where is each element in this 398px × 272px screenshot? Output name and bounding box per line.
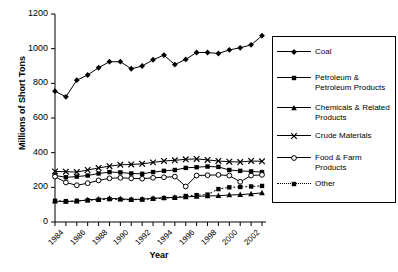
square-icon [287,177,301,191]
marker-circle-open [63,180,68,185]
marker-triangle [291,105,297,110]
diamond-icon [287,45,301,59]
marker-diamond [183,57,189,63]
marker-square [162,196,166,200]
marker-diamond [52,88,58,94]
marker-square [96,171,100,175]
marker-diamond [85,72,91,78]
marker-diamond [194,50,200,56]
marker-square [194,165,198,169]
legend-label[interactable]: Food & Farm Products [315,153,395,172]
legend-label[interactable]: Chemicals & Related Products [315,103,395,122]
marker-square [184,194,188,198]
marker-circle-open [85,181,90,186]
marker-square [216,165,220,169]
chart-figure: Millions of Short Tons Year 120010008006… [0,0,398,272]
marker-diamond [139,63,145,69]
marker-square [129,171,133,175]
marker-square [292,76,296,80]
marker-square [227,168,231,172]
marker-square [75,174,79,178]
marker-square [184,166,188,170]
series-food-farm-products [53,172,265,188]
marker-circle-open [74,183,79,188]
legend-label[interactable]: Crude Materials [315,131,395,141]
marker-diamond [128,66,134,72]
marker-square [118,170,122,174]
marker-square [292,182,296,186]
series-other [53,184,264,204]
marker-circle-open [238,179,243,184]
marker-square [194,193,198,197]
legend-label[interactable]: Other [315,179,395,189]
marker-diamond [226,47,232,53]
marker-circle-open [249,173,254,178]
marker-square [75,199,79,203]
marker-circle-open [107,176,112,181]
marker-diamond [291,49,297,55]
square-icon [287,71,301,85]
series-line [55,36,262,97]
marker-circle-open [205,173,210,178]
marker-diamond [205,50,211,56]
marker-square [64,199,68,203]
marker-triangle [259,190,265,195]
marker-square [107,170,111,174]
marker-x [291,133,297,139]
marker-circle-open [216,172,221,177]
legend-label[interactable]: Petroleum & Petroleum Products [315,73,395,92]
marker-square [205,192,209,196]
marker-diamond [96,65,102,71]
series-crude-materials [52,156,265,175]
marker-square [151,170,155,174]
triangle-icon [287,101,301,115]
marker-square [85,173,89,177]
marker-square [216,187,220,191]
chart-legend: CoalPetroleum & Petroleum ProductsChemic… [272,36,396,203]
marker-square [260,184,264,188]
marker-square [173,196,177,200]
marker-square [107,197,111,201]
marker-circle-open [227,173,232,178]
marker-square [205,164,209,168]
marker-circle-open [292,156,297,161]
marker-circle-open [151,175,156,180]
marker-square [238,185,242,189]
marker-circle-open [118,175,123,180]
marker-square [129,198,133,202]
marker-diamond [150,57,156,63]
circle-open-icon [287,151,301,165]
marker-square [227,185,231,189]
marker-square [118,197,122,201]
marker-square [140,172,144,176]
marker-circle-open [183,184,188,189]
series-coal [52,33,265,100]
x-icon [287,129,301,143]
marker-diamond [107,59,113,65]
marker-circle-open [129,176,134,181]
marker-diamond [216,51,222,57]
marker-square [85,198,89,202]
marker-square [238,169,242,173]
marker-diamond [117,59,123,65]
marker-square [173,168,177,172]
marker-circle-open [194,173,199,178]
marker-circle-open [140,176,145,181]
marker-circle-open [172,174,177,179]
marker-diamond [74,77,80,83]
legend-label[interactable]: Coal [315,47,395,57]
marker-square [140,197,144,201]
series-chemicals-related-products [52,190,265,204]
marker-circle-open [260,172,265,177]
marker-diamond [237,45,243,51]
marker-square [53,199,57,203]
marker-circle-open [96,178,101,183]
marker-square [96,198,100,202]
marker-square [162,169,166,173]
marker-square [249,184,253,188]
marker-circle-open [162,175,167,180]
marker-square [64,175,68,179]
marker-diamond [63,94,69,100]
marker-circle-open [53,174,58,179]
marker-square [151,197,155,201]
